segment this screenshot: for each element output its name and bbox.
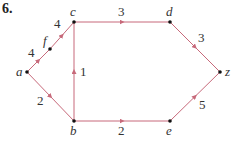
weight-a-b: 2 (37, 93, 44, 108)
weight-a-f: 4 (28, 45, 35, 60)
weighted-graph: a f c d z e b 4 4 2 1 3 2 3 5 (0, 0, 238, 143)
node-d (168, 20, 172, 24)
edge-weights: 4 4 2 1 3 2 3 5 (28, 4, 206, 138)
node-a (25, 70, 29, 74)
node-label-d: d (166, 4, 173, 19)
node-label-c: c (70, 4, 76, 19)
node-label-f: f (43, 33, 49, 48)
node-label-e: e (166, 123, 172, 138)
edges (27, 22, 220, 121)
node-f (48, 47, 52, 51)
node-c (72, 20, 76, 24)
edge-e-z (170, 72, 220, 121)
node-label-a: a (16, 64, 23, 79)
weight-d-z: 3 (198, 30, 205, 45)
node-label-z: z (224, 64, 230, 79)
edge-d-z (170, 22, 220, 72)
nodes (25, 20, 222, 123)
weight-b-e: 2 (118, 123, 125, 138)
weight-b-c: 1 (80, 64, 87, 79)
node-label-b: b (70, 123, 77, 138)
weight-c-d: 3 (118, 4, 125, 19)
weight-f-c: 4 (54, 16, 61, 31)
node-z (218, 70, 222, 74)
node-labels: a f c d z e b (16, 4, 230, 138)
edge-a-b (27, 72, 74, 121)
weight-e-z: 5 (199, 97, 206, 112)
